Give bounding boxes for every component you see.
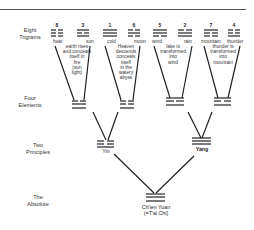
trigram-number: 8 bbox=[52, 23, 62, 28]
yin-label: Yin bbox=[98, 148, 114, 154]
trigram-number: 2 bbox=[180, 23, 190, 28]
trigram-cold-icon bbox=[103, 30, 117, 36]
trigram-thunder-icon bbox=[228, 30, 240, 36]
trigram-mountain-icon bbox=[204, 30, 218, 36]
description-water: Heaven descends conceals itself in the w… bbox=[107, 44, 145, 80]
element-2-icon bbox=[120, 101, 134, 108]
description-mountain: thunder is transformed into mountain bbox=[202, 44, 244, 65]
trigram-number: 6 bbox=[129, 23, 139, 28]
absolute-alt-name: (=T'ai Chi) bbox=[133, 210, 179, 216]
trigram-rain-icon bbox=[178, 30, 192, 36]
description-wind: lake is transformed into wind bbox=[152, 44, 194, 65]
trigram-number: 3 bbox=[78, 23, 88, 28]
yin-icon bbox=[97, 141, 114, 147]
trigram-moon-icon bbox=[128, 30, 140, 36]
yang-icon bbox=[192, 138, 211, 144]
element-3-icon bbox=[166, 98, 184, 105]
absolute-icon bbox=[146, 194, 165, 201]
element-1-icon bbox=[72, 101, 86, 108]
trigram-heat-icon bbox=[51, 30, 63, 36]
yang-label: Yang bbox=[193, 146, 211, 152]
diagram-lines bbox=[0, 0, 254, 230]
trigram-number: 1 bbox=[105, 23, 115, 28]
trigram-number: 5 bbox=[155, 23, 165, 28]
trigram-wind-icon bbox=[153, 30, 167, 36]
trigram-number: 7 bbox=[206, 23, 216, 28]
trigram-number: 4 bbox=[229, 23, 239, 28]
description-fire: earth rises and conceals itself in fire … bbox=[56, 44, 98, 75]
element-4-icon bbox=[214, 98, 231, 105]
trigram-sun-icon bbox=[77, 30, 89, 36]
